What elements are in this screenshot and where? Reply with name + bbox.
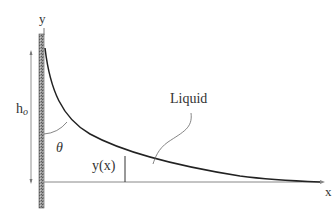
diagram-canvas: y x ho θ y(x) Liquid <box>0 0 335 215</box>
height-dimension-arrow <box>30 50 33 184</box>
wall <box>39 34 44 208</box>
y-axis-label: y <box>39 11 46 26</box>
local-height-label: y(x) <box>92 158 116 174</box>
liquid-leader-line <box>153 113 191 164</box>
height-label: ho <box>16 101 28 117</box>
meniscus-diagram: y x ho θ y(x) Liquid <box>0 0 335 215</box>
contact-angle-arc <box>44 122 67 134</box>
meniscus-curve <box>45 48 320 182</box>
liquid-label: Liquid <box>170 91 207 106</box>
x-axis-label: x <box>325 184 332 199</box>
angle-label: θ <box>56 140 63 155</box>
